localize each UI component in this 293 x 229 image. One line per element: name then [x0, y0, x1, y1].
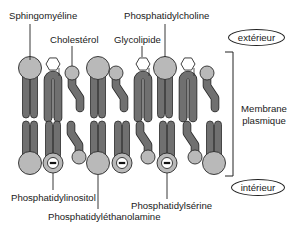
membrane-label: Membrane plasmique — [236, 103, 292, 127]
small-head — [200, 66, 214, 80]
outside-oval-label: extérieur — [228, 29, 285, 46]
minus-icon — [119, 162, 125, 164]
label-phosphatidylserine: Phosphatidylsérine — [131, 201, 212, 211]
phospholipid-head — [154, 57, 177, 80]
label-phosphatidylethanolamine: Phosphatidyléthanolamine — [48, 212, 161, 222]
label-phosphatidylinositol: Phosphatidylinositol — [11, 193, 96, 203]
small-head — [141, 150, 155, 164]
label-glycolipide: Glycolipide — [114, 35, 161, 45]
label-cholesterol: Cholestérol — [50, 35, 99, 45]
sugar-hexagon-icon — [136, 58, 150, 70]
label-sphingomyeline: Sphingomyéline — [9, 11, 77, 21]
phospholipid-head — [19, 152, 42, 175]
minus-icon — [164, 162, 170, 164]
inside-oval-label: intérieur — [231, 179, 285, 196]
small-head — [188, 150, 202, 164]
membrane-label-line1: Membrane — [236, 103, 292, 115]
label-phosphatidylcholine: Phosphatidylcholine — [124, 11, 209, 21]
membrane-diagram: Sphingomyéline Cholestérol Glycolipide P… — [0, 0, 293, 229]
phospholipid-head — [203, 152, 226, 175]
phospholipid-head — [87, 152, 110, 175]
small-head — [109, 66, 123, 80]
membrane-bracket — [225, 52, 233, 176]
sugar-hexagon-icon — [181, 58, 195, 70]
small-head — [65, 66, 79, 80]
sugar-hexagon-icon — [46, 58, 60, 70]
minus-icon — [50, 162, 56, 164]
small-head — [72, 150, 86, 164]
phospholipid-head — [87, 57, 110, 80]
membrane-label-line2: plasmique — [236, 115, 292, 127]
